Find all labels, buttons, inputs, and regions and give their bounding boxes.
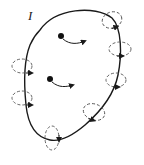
current-loop-diagram [0, 0, 144, 165]
field-circle [81, 101, 107, 124]
field-circle [100, 9, 124, 31]
field-circle [45, 126, 59, 150]
point-charge [58, 33, 85, 43]
field-circle [12, 59, 32, 73]
point-charge [47, 76, 73, 87]
field-circle [12, 91, 32, 105]
current-loop [25, 10, 121, 140]
field-circle [106, 73, 126, 87]
